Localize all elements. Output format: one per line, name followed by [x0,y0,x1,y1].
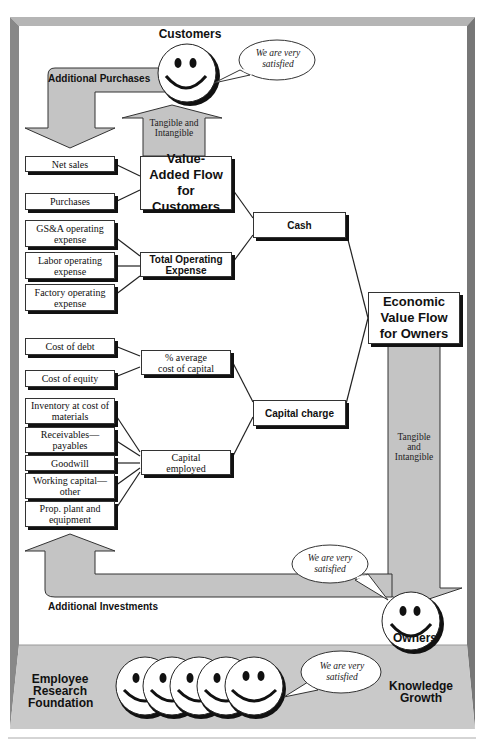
avg-cost-capital-box: % average cost of capital [141,350,231,375]
goodwill-box: Goodwill [25,455,115,471]
purchases-box: Purchases [25,193,115,210]
owners-label: Owners [380,632,450,644]
value-added-flow-box: Value-Added Flow for Customers [140,156,232,210]
additional-investments-label: Additional Investments [48,601,188,613]
customers-speech-text: We are very satisfied [252,48,304,70]
tangible-up-label: Tangible and Intangible [148,118,200,138]
employee-smileys-group [116,657,286,719]
receivables-box: Receivables— payables [25,427,115,453]
total-opex-box: Total Operating Expense [140,252,232,277]
customers-label: Customers [150,28,230,40]
labor-expense-box: Labor operating expense [25,252,115,279]
cost-of-equity-box: Cost of equity [25,370,115,387]
employee-research-foundation-label: Employee Research Foundation [28,673,92,709]
cost-of-debt-box: Cost of debt [25,338,115,355]
net-sales-box: Net sales [25,156,115,172]
economic-value-flow-box: Economic Value Flow for Owners [368,292,460,344]
tangible-down-label: Tangible and Intangible [390,432,438,462]
capital-employed-box: Capital employed [141,450,231,475]
knowledge-growth-label: Knowledge Growth [388,680,454,704]
additional-purchases-label: Additional Purchases [48,73,168,85]
employee-speech-text: We are very satisfied [314,661,370,683]
inventory-box: Inventory at cost of materials [25,398,115,424]
capital-charge-box: Capital charge [253,400,346,426]
working-capital-box: Working capital— other [25,473,115,499]
owners-speech-text: We are very satisfied [302,553,358,575]
gsa-expense-box: GS&A operating expense [25,220,115,247]
cash-box: Cash [253,212,346,238]
ppe-box: Prop. plant and equipment [25,501,115,527]
factory-expense-box: Factory operating expense [25,284,115,311]
